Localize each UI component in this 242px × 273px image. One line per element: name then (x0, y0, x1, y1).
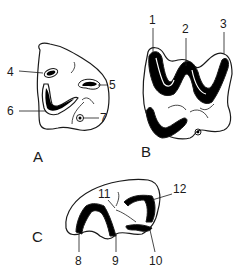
tooth-diagram: 4 5 6 7 A 1 2 3 B (0, 0, 242, 273)
enamel-fold-lower (146, 108, 187, 139)
enamel-fold-w (149, 52, 229, 104)
panel-b: 1 2 3 B (141, 13, 232, 160)
callout-8: 8 (75, 254, 82, 268)
callout-11: 11 (98, 187, 111, 201)
panel-c-label: C (32, 228, 43, 245)
callout-4: 4 (7, 65, 14, 79)
callout-7: 7 (100, 111, 107, 125)
callout-3: 3 (220, 17, 227, 31)
callout-10: 10 (149, 254, 163, 268)
panel-a: 4 5 6 7 A (7, 43, 116, 165)
callout-2: 2 (182, 22, 189, 36)
panel-c: 8 9 10 11 12 C (32, 179, 187, 268)
enamel-fold-c-right (124, 195, 155, 222)
callout-12: 12 (173, 182, 187, 196)
panel-a-label: A (33, 148, 43, 165)
panel-b-label: B (141, 143, 151, 160)
enamel-fold-c-left (76, 204, 116, 236)
enamel-fold-c-lower (126, 225, 152, 232)
callout-1: 1 (149, 13, 156, 27)
callout-9: 9 (112, 254, 119, 268)
callout-6: 6 (7, 104, 14, 118)
callout-5: 5 (109, 78, 116, 92)
